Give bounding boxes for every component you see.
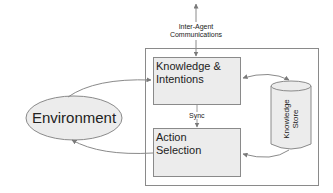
inter-agent-label-line1: Inter-Agent [160,23,232,31]
inter-agent-label: Inter-Agent Communications [160,23,232,39]
knowledge-store-line2: Store [291,89,300,149]
action-selection-line1: Action [156,131,201,144]
action-to-env-arrow [72,140,153,153]
inter-agent-label-line2: Communications [160,31,232,39]
knowledge-intentions-line2: Intentions [156,73,221,86]
knowledge-store-label: Knowledge Store [282,89,300,149]
env-to-knowledge-arrow [68,80,151,97]
knowledge-intentions-label: Knowledge & Intentions [156,60,221,86]
knowledge-store-line1: Knowledge [282,89,291,149]
action-selection-label: Action Selection [156,131,201,157]
environment-label: Environment [26,109,122,126]
sync-label: Sync [188,112,206,119]
knowledge-intentions-line1: Knowledge & [156,60,221,73]
action-selection-line2: Selection [156,144,201,157]
